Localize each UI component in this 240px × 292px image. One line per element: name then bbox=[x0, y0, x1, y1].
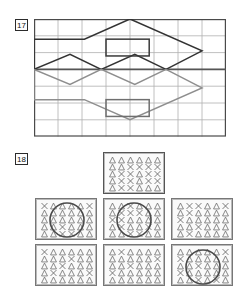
x-icon bbox=[51, 270, 57, 276]
x-icon bbox=[119, 249, 125, 255]
x-icon bbox=[42, 203, 48, 209]
triangle-icon bbox=[110, 263, 116, 269]
triangle-icon bbox=[110, 164, 116, 170]
x-icon bbox=[119, 178, 125, 184]
x-icon bbox=[119, 217, 125, 223]
triangle-icon bbox=[78, 270, 84, 276]
triangle-icon bbox=[87, 210, 93, 216]
panel-pattern-svg bbox=[104, 153, 165, 194]
triangle-icon bbox=[146, 157, 152, 163]
triangle-icon bbox=[42, 277, 48, 283]
x-icon bbox=[137, 210, 143, 216]
triangle-icon bbox=[178, 249, 184, 255]
triangle-icon bbox=[155, 210, 161, 216]
triangle-icon bbox=[223, 263, 229, 269]
panel-pattern-svg bbox=[104, 199, 165, 240]
triangle-icon bbox=[78, 263, 84, 269]
triangle-icon bbox=[69, 270, 75, 276]
triangle-icon bbox=[137, 217, 143, 223]
triangle-icon bbox=[69, 249, 75, 255]
reference-panel[interactable] bbox=[103, 152, 165, 194]
x-icon bbox=[178, 217, 184, 223]
option-panel-1[interactable] bbox=[35, 198, 97, 240]
triangle-icon bbox=[42, 270, 48, 276]
triangle-icon bbox=[42, 231, 48, 237]
triangle-icon bbox=[146, 277, 152, 283]
triangle-icon bbox=[155, 157, 161, 163]
triangle-icon bbox=[178, 224, 184, 230]
option-panel-3[interactable] bbox=[171, 198, 233, 240]
x-icon bbox=[110, 270, 116, 276]
x-icon bbox=[155, 256, 161, 262]
triangle-icon bbox=[42, 256, 48, 262]
triangle-icon bbox=[119, 256, 125, 262]
triangle-icon bbox=[110, 171, 116, 177]
triangle-icon bbox=[119, 270, 125, 276]
triangle-icon bbox=[146, 256, 152, 262]
triangle-icon bbox=[214, 203, 220, 209]
triangle-icon bbox=[128, 277, 134, 283]
triangle-icon bbox=[155, 249, 161, 255]
triangle-icon bbox=[146, 263, 152, 269]
triangle-icon bbox=[205, 270, 211, 276]
x-icon bbox=[128, 178, 134, 184]
triangle-icon bbox=[110, 256, 116, 262]
triangle-icon bbox=[137, 263, 143, 269]
x-icon bbox=[128, 185, 134, 191]
x-icon bbox=[128, 171, 134, 177]
triangle-icon bbox=[42, 210, 48, 216]
triangle-icon bbox=[110, 277, 116, 283]
option-panel-5[interactable] bbox=[103, 244, 165, 286]
triangle-icon bbox=[69, 263, 75, 269]
triangle-icon bbox=[155, 263, 161, 269]
triangle-icon bbox=[214, 224, 220, 230]
triangle-icon bbox=[87, 249, 93, 255]
triangle-icon bbox=[223, 270, 229, 276]
triangle-icon bbox=[110, 210, 116, 216]
x-icon bbox=[187, 210, 193, 216]
triangle-icon bbox=[51, 249, 57, 255]
triangle-icon bbox=[42, 217, 48, 223]
triangle-icon bbox=[87, 231, 93, 237]
triangle-icon bbox=[87, 263, 93, 269]
panel-pattern-svg bbox=[104, 245, 165, 286]
triangle-icon bbox=[205, 203, 211, 209]
x-icon bbox=[128, 263, 134, 269]
triangle-icon bbox=[60, 217, 66, 223]
triangle-icon bbox=[128, 224, 134, 230]
triangle-icon bbox=[119, 157, 125, 163]
option-panel-2[interactable] bbox=[103, 198, 165, 240]
triangle-icon bbox=[155, 203, 161, 209]
x-icon bbox=[146, 164, 152, 170]
triangle-icon bbox=[155, 185, 161, 191]
exercise-18-panels bbox=[0, 148, 240, 292]
triangle-icon bbox=[87, 256, 93, 262]
triangle-icon bbox=[110, 249, 116, 255]
triangle-icon bbox=[146, 270, 152, 276]
option-panel-6[interactable] bbox=[171, 244, 233, 286]
x-icon bbox=[87, 203, 93, 209]
triangle-icon bbox=[69, 217, 75, 223]
triangle-icon bbox=[155, 270, 161, 276]
triangle-icon bbox=[87, 277, 93, 283]
triangle-icon bbox=[178, 277, 184, 283]
x-icon bbox=[119, 185, 125, 191]
triangle-icon bbox=[110, 231, 116, 237]
triangle-icon bbox=[137, 185, 143, 191]
triangle-icon bbox=[42, 224, 48, 230]
triangle-icon bbox=[187, 263, 193, 269]
triangle-icon bbox=[196, 256, 202, 262]
triangle-icon bbox=[205, 210, 211, 216]
x-icon bbox=[155, 164, 161, 170]
triangle-icon bbox=[110, 185, 116, 191]
triangle-icon bbox=[196, 217, 202, 223]
triangle-icon bbox=[51, 277, 57, 283]
triangle-icon bbox=[137, 178, 143, 184]
option-panel-4[interactable] bbox=[35, 244, 97, 286]
triangle-icon bbox=[42, 263, 48, 269]
triangle-icon bbox=[223, 256, 229, 262]
triangle-icon bbox=[214, 263, 220, 269]
triangle-icon bbox=[178, 203, 184, 209]
triangle-icon bbox=[196, 270, 202, 276]
triangle-icon bbox=[128, 270, 134, 276]
